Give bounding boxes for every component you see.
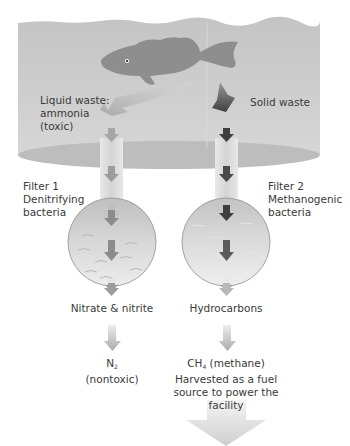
methane-name: (methane) [206,357,265,369]
filter-1-final-output: N2 (nontoxic) [62,357,162,386]
methane-note-line-1: Harvested as a fuel [166,373,286,386]
nitrogen-formula: N2 [62,357,162,373]
filter-2-final-output: CH4 (methane) Harvested as a fuel source… [166,357,286,412]
output-arrows [104,283,236,351]
n2-symbol: N [106,357,114,369]
filter-2-description-2: bacteria [268,206,342,219]
nontoxic-note: (nontoxic) [62,373,162,386]
filter-2-name: Filter 2 [268,180,342,193]
liquid-waste-line-2: ammonia [40,107,110,120]
methane-formula: CH4 (methane) [166,357,286,373]
filter-2-label: Filter 2 Methanogenic bacteria [268,180,342,219]
ch4-symbol: CH [187,357,202,369]
filter-1-name: Filter 1 [23,180,84,193]
methane-note-line-3: facility [166,399,286,412]
liquid-waste-line-1: Liquid waste: [40,94,110,107]
filter-1-label: Filter 1 Denitrifying bacteria [23,180,84,219]
methane-note-line-2: source to power the [166,386,286,399]
solid-waste-label: Solid waste [250,96,310,109]
filter-2-circle [182,198,270,286]
filter-1-output: Nitrate & nitrite [62,302,162,315]
n2-subscript: 2 [114,363,118,370]
liquid-waste-line-3: (toxic) [40,120,110,133]
liquid-waste-label: Liquid waste: ammonia (toxic) [40,94,110,133]
filter-1-description-2: bacteria [23,206,84,219]
filter-2-description: Methanogenic [268,193,342,206]
filter-2-output: Hydrocarbons [176,302,276,315]
filter-1-description: Denitrifying [23,193,84,206]
